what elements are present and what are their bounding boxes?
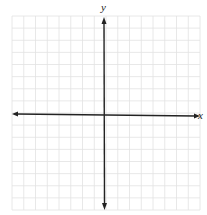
x-axis-label: x [198, 110, 203, 121]
x-axis [16, 114, 196, 116]
grid-lines [12, 16, 200, 210]
y-axis-label: y [101, 2, 106, 13]
coordinate-plane [0, 0, 207, 215]
y-axis [104, 21, 105, 206]
x-axis-left-arrow-icon [12, 112, 18, 117]
